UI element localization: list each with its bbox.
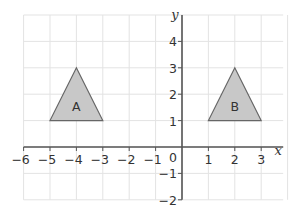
y-tick-label: 1	[169, 114, 177, 129]
y-tick-label: 3	[169, 61, 177, 76]
x-tick-label: −2	[117, 152, 135, 167]
y-tick-label: 4	[169, 34, 177, 49]
x-tick-label: −6	[11, 152, 29, 167]
x-tick-label: −1	[143, 152, 161, 167]
x-tick-label: −5	[38, 152, 56, 167]
shape-label-a: A	[72, 99, 81, 114]
x-tick-label: −3	[91, 152, 109, 167]
shape-label-b: B	[231, 99, 240, 114]
y-tick-label: −2	[159, 193, 177, 208]
x-tick-label: 3	[257, 152, 265, 167]
x-axis-label: x	[275, 143, 283, 158]
y-axis-label: y	[170, 7, 179, 22]
origin-label: 0	[169, 150, 177, 165]
x-tick-label: 2	[231, 152, 239, 167]
coordinate-grid: AB −6−5−4−3−2−11234321−1−20xy	[0, 0, 297, 217]
y-tick-label: −1	[159, 166, 177, 181]
x-tick-label: 1	[204, 152, 212, 167]
y-tick-label: 2	[169, 87, 177, 102]
x-tick-label: −4	[64, 152, 82, 167]
